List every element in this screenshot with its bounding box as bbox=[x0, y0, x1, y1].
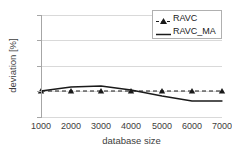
y-tick-10 bbox=[37, 40, 41, 41]
y-axis-line bbox=[41, 15, 42, 118]
y-tick-15 bbox=[37, 15, 41, 16]
x-tick-label-7000: 7000 bbox=[202, 121, 232, 131]
y-tick-5 bbox=[37, 66, 41, 67]
chart-container: 15 10 5 0 -5 1000 2000 3000 4000 5000 60… bbox=[0, 0, 232, 153]
legend-item-ravc[interactable]: RAVC bbox=[156, 12, 197, 25]
y-tick-minus5 bbox=[37, 117, 41, 118]
legend-label-ravc: RAVC bbox=[173, 13, 197, 24]
y-axis-title: deviation [%] bbox=[7, 21, 18, 111]
chart-legend: RAVC RAVC_MA bbox=[152, 10, 222, 39]
legend-label-ravc-ma: RAVC_MA bbox=[173, 26, 216, 37]
legend-item-ravc-ma[interactable]: RAVC_MA bbox=[156, 25, 216, 38]
x-axis-title: database size bbox=[41, 135, 222, 146]
triangle-marker-icon bbox=[156, 13, 171, 24]
line-marker-icon bbox=[156, 26, 171, 37]
series-line-ravc-ma bbox=[41, 86, 222, 101]
y-tick-0 bbox=[37, 91, 41, 92]
